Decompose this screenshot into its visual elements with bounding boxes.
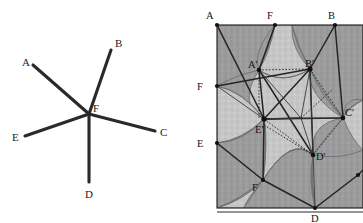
label-E-left: E [197, 138, 203, 149]
label-C-prime: C' [345, 107, 354, 118]
left-panel-star-vertex: A B C D E F [0, 0, 182, 223]
dot-right-edge [356, 173, 360, 177]
label-F-left: F [197, 81, 203, 92]
dot-A-top [215, 23, 219, 27]
spoke-segment-FC [89, 114, 155, 131]
label-F-bottom: F [252, 182, 258, 193]
label-F-left-center: F [93, 102, 99, 114]
left-panel-spokes [25, 50, 155, 182]
dot-E-left [215, 141, 219, 145]
label-A-top: A [206, 10, 214, 21]
dot-F-top [273, 23, 277, 27]
label-A-left: A [22, 56, 30, 68]
label-E-prime: E' [255, 124, 263, 135]
label-C-left: C [160, 126, 167, 138]
label-D-bottom: D [311, 213, 319, 223]
dot-B-top [333, 23, 337, 27]
right-panel-tiling: A F B F E F D A' B' E' C' D' [182, 0, 363, 223]
label-E-left: E [12, 131, 19, 143]
label-B-left: B [115, 37, 122, 49]
dot-Dprime [311, 153, 316, 158]
figure-container: A B C D E F [0, 0, 363, 223]
label-D-prime: D' [316, 151, 326, 162]
dot-Eprime [261, 116, 266, 121]
spoke-segment-FE [25, 114, 89, 136]
label-A-prime: A' [248, 59, 258, 70]
label-B-prime: B' [305, 58, 314, 69]
dot-D-bottom [313, 206, 317, 210]
label-B-top: B [328, 10, 335, 21]
dot-F-bottom [261, 178, 265, 182]
label-F-top: F [267, 10, 273, 21]
label-D-left: D [85, 188, 93, 200]
spoke-segment-FA [33, 65, 89, 114]
dot-F-left [215, 84, 219, 88]
tile-artwork [217, 25, 363, 208]
